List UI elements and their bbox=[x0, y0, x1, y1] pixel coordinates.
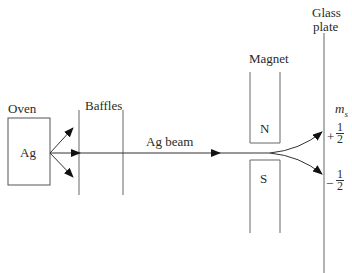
emission-arrow-up bbox=[50, 128, 73, 153]
beam-label: Ag beam bbox=[146, 135, 193, 149]
minus-sign: − bbox=[326, 177, 333, 191]
plus-sign: + bbox=[327, 130, 334, 144]
fraction-denominator: 2 bbox=[336, 180, 344, 192]
minus-half-fraction: 1 2 bbox=[336, 169, 344, 192]
element-label: Ag bbox=[20, 146, 36, 160]
ms-subscript: s bbox=[344, 109, 348, 119]
ms-symbol: m bbox=[335, 101, 344, 116]
north-pole-label: N bbox=[260, 122, 269, 136]
spin-down-path bbox=[270, 153, 322, 174]
ms-label: ms bbox=[335, 102, 348, 121]
magnet-label: Magnet bbox=[249, 52, 289, 66]
oven-label: Oven bbox=[8, 102, 36, 116]
baffles-label: Baffles bbox=[85, 99, 122, 113]
glass-plate-label-line2: plate bbox=[313, 20, 338, 34]
plus-half-fraction: 1 2 bbox=[336, 122, 344, 145]
emission-arrow-down bbox=[50, 153, 73, 177]
south-pole-label: S bbox=[260, 172, 267, 186]
fraction-denominator: 2 bbox=[336, 133, 344, 145]
glass-plate-label-line1: Glass bbox=[312, 6, 341, 20]
